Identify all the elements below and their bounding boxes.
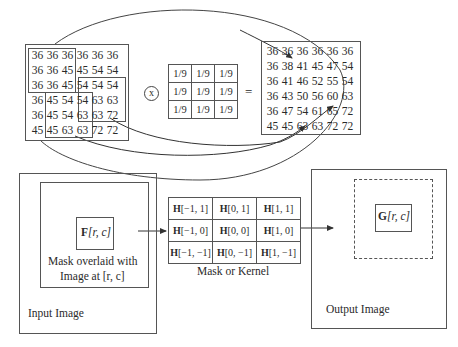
cell: 36 bbox=[45, 48, 60, 63]
cell: 36 bbox=[30, 63, 45, 78]
output-matrix: 363636363636 363841454754 364146525554 3… bbox=[265, 44, 355, 134]
cell: 63 bbox=[295, 119, 310, 134]
cell: 72 bbox=[340, 119, 355, 134]
cell: 36 bbox=[265, 104, 280, 119]
cell: 36 bbox=[280, 44, 295, 59]
cell: 36 bbox=[45, 63, 60, 78]
cell: 54 bbox=[75, 78, 90, 93]
cell: 45 bbox=[45, 123, 60, 138]
cell: 72 bbox=[105, 108, 120, 123]
cell: 52 bbox=[310, 74, 325, 89]
g-symbol: G bbox=[378, 210, 387, 222]
kernel-cell: H[1, 0] bbox=[257, 220, 301, 242]
cell: 63 bbox=[310, 119, 325, 134]
cell: 38 bbox=[280, 59, 295, 74]
g-pixel-label: G[r, c] bbox=[378, 210, 410, 222]
cell: 36 bbox=[265, 59, 280, 74]
kernel-cell: 1/9 bbox=[169, 101, 192, 119]
cell: 45 bbox=[45, 108, 60, 123]
cell: 45 bbox=[75, 63, 90, 78]
cell: 47 bbox=[280, 104, 295, 119]
kernel-cell: 1/9 bbox=[192, 83, 215, 101]
cell: 36 bbox=[265, 44, 280, 59]
f-pixel-label: F[r, c] bbox=[81, 226, 111, 238]
cell: 36 bbox=[75, 48, 90, 63]
cell: 36 bbox=[30, 108, 45, 123]
cell: 55 bbox=[325, 74, 340, 89]
cell: 54 bbox=[90, 63, 105, 78]
cell: 56 bbox=[310, 89, 325, 104]
cell: 63 bbox=[90, 93, 105, 108]
cell: 36 bbox=[30, 78, 45, 93]
kernel-cell: 1/9 bbox=[192, 101, 215, 119]
kernel-cell: 1/9 bbox=[215, 101, 238, 119]
cell: 41 bbox=[280, 74, 295, 89]
cell: 61 bbox=[310, 104, 325, 119]
cell: 65 bbox=[325, 104, 340, 119]
cell: 36 bbox=[30, 93, 45, 108]
kernel-cell: 1/9 bbox=[169, 83, 192, 101]
kernel-cell: 1/9 bbox=[192, 65, 215, 83]
cell: 36 bbox=[265, 89, 280, 104]
mask-kernel-table: H[−1, 1] H[0, 1] H[1, 1] H[−1, 0] H[0, 0… bbox=[168, 197, 301, 264]
cell: 54 bbox=[105, 78, 120, 93]
f-index: [r, c] bbox=[88, 226, 111, 238]
mask-caption-line2: Image at [r, c] bbox=[60, 270, 125, 282]
cell: 72 bbox=[325, 119, 340, 134]
cell: 45 bbox=[30, 123, 45, 138]
input-matrix: 363636363636 363645455454 363645545454 3… bbox=[30, 48, 120, 138]
cell: 36 bbox=[90, 48, 105, 63]
cell: 36 bbox=[60, 48, 75, 63]
cell: 36 bbox=[30, 48, 45, 63]
cell: 54 bbox=[295, 104, 310, 119]
cell: 36 bbox=[340, 44, 355, 59]
cell: 54 bbox=[340, 59, 355, 74]
kernel-cell: H[0, −1] bbox=[213, 242, 257, 264]
cell: 63 bbox=[340, 89, 355, 104]
f-symbol: F bbox=[81, 226, 88, 238]
input-image-label: Input Image bbox=[28, 307, 84, 319]
cell: 54 bbox=[75, 93, 90, 108]
cell: 45 bbox=[265, 119, 280, 134]
cell: 36 bbox=[105, 48, 120, 63]
cell: 45 bbox=[60, 78, 75, 93]
cell: 63 bbox=[60, 123, 75, 138]
kernel-cell: H[−1, −1] bbox=[169, 242, 213, 264]
kernel-cell: H[−1, 0] bbox=[169, 220, 213, 242]
cell: 63 bbox=[90, 108, 105, 123]
cell: 54 bbox=[105, 63, 120, 78]
kernel-cell: H[0, 0] bbox=[213, 220, 257, 242]
kernel-cell: H[0, 1] bbox=[213, 198, 257, 220]
cell: 45 bbox=[45, 93, 60, 108]
cell: 54 bbox=[60, 93, 75, 108]
cell: 45 bbox=[280, 119, 295, 134]
output-image-label: Output Image bbox=[326, 303, 390, 315]
cell: 46 bbox=[295, 74, 310, 89]
cell: 50 bbox=[295, 89, 310, 104]
cell: 45 bbox=[310, 59, 325, 74]
cell: 45 bbox=[60, 63, 75, 78]
averaging-kernel: 1/91/91/9 1/91/91/9 1/91/91/9 bbox=[168, 64, 238, 119]
cell: 36 bbox=[325, 44, 340, 59]
cell: 54 bbox=[340, 74, 355, 89]
convolution-operator-icon: x bbox=[144, 86, 159, 101]
cell: 63 bbox=[75, 123, 90, 138]
cell: 47 bbox=[325, 59, 340, 74]
kernel-cell: 1/9 bbox=[215, 83, 238, 101]
cell: 36 bbox=[45, 78, 60, 93]
cell: 54 bbox=[60, 108, 75, 123]
cell: 72 bbox=[105, 123, 120, 138]
kernel-cell: 1/9 bbox=[169, 65, 192, 83]
kernel-cell: H[1, −1] bbox=[257, 242, 301, 264]
cell: 41 bbox=[295, 59, 310, 74]
cell: 36 bbox=[310, 44, 325, 59]
g-index: [r, c] bbox=[387, 210, 410, 222]
kernel-cell: 1/9 bbox=[215, 65, 238, 83]
cell: 36 bbox=[295, 44, 310, 59]
cell: 72 bbox=[90, 123, 105, 138]
cell: 60 bbox=[325, 89, 340, 104]
cell: 54 bbox=[90, 78, 105, 93]
cell: 63 bbox=[75, 108, 90, 123]
mask-caption-line1: Mask overlaid with bbox=[48, 255, 137, 267]
kernel-cell: H[1, 1] bbox=[257, 198, 301, 220]
